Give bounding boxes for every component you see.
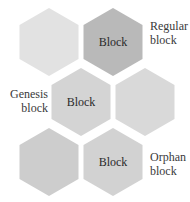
- orphan-block-annotation: Orphan block: [150, 150, 186, 178]
- genesis-block-annotation: Genesis block: [2, 87, 48, 115]
- hex-bottom-right: Block: [84, 128, 143, 196]
- hex-middle-right: [116, 68, 175, 136]
- hex-top-right: Block: [84, 8, 143, 76]
- orphan-block-annotation-line2: block: [150, 164, 186, 178]
- block-label: Block: [99, 155, 128, 169]
- hexagon-shape: [20, 128, 79, 196]
- regular-block-annotation-line2: block: [150, 33, 188, 47]
- hexagon-shape: [116, 68, 175, 136]
- genesis-block-annotation-line2: block: [2, 101, 48, 115]
- hex-top-left: [20, 8, 79, 76]
- block-label: Block: [67, 95, 96, 109]
- hexagon-shape: [20, 8, 79, 76]
- hex-middle-left: Block: [52, 68, 111, 136]
- block-label: Block: [99, 35, 128, 49]
- orphan-block-annotation-line1: Orphan: [150, 150, 186, 164]
- regular-block-annotation: Regular block: [150, 19, 188, 47]
- genesis-block-annotation-line1: Genesis: [2, 87, 48, 101]
- regular-block-annotation-line1: Regular: [150, 19, 188, 33]
- hex-bottom-left: [20, 128, 79, 196]
